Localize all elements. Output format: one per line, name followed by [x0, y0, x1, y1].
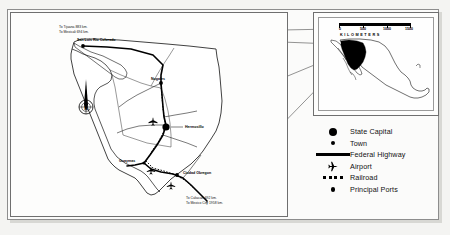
inset-map-frame: 0 500 1000 1500 KILOMETERS [318, 17, 434, 111]
legend-item-state-capital: State Capital [316, 126, 444, 138]
main-map-panel[interactable]: N To Tijuana 883 km. To Mexicali 694 km.… [10, 12, 288, 217]
city-dot-san-luis-rio-colorado [81, 44, 85, 48]
legend-item-town: Town [316, 138, 444, 150]
city-dot-hermosillo [162, 123, 169, 130]
legend-label-state-capital: State Capital [350, 127, 392, 136]
airport-icon-ciudad-obregon [167, 181, 175, 189]
city-label-nogales: Nogales [151, 77, 165, 81]
airplane-glyph [328, 161, 339, 172]
city-label-san-luis-rio-colorado: San Luis Rio Colorado [77, 38, 116, 42]
route-note-mexico-city: To Mexico City 1958 km. [186, 201, 223, 205]
legend-label-town: Town [350, 139, 367, 148]
legend-item-principal-ports: Principal Ports [316, 184, 444, 196]
legend-label-railroad: Railroad [350, 173, 378, 182]
city-label-hermosillo: Hermosillo [185, 125, 204, 129]
thick-black-line-icon [316, 153, 350, 156]
map-legend: State Capital Town Federal Highway Airpo… [316, 126, 444, 195]
small-filled-circle-icon [316, 141, 350, 145]
city-dot-ciudad-obregon [175, 173, 179, 177]
legend-item-airport: Airport [316, 161, 444, 173]
city-label-guaymas: Guaymas [119, 159, 135, 163]
svg-text:N: N [84, 105, 88, 111]
medium-filled-circle-icon [316, 187, 350, 192]
city-dot-nogales [159, 81, 163, 85]
dashed-squares-icon [316, 176, 350, 179]
legend-label-federal-highway: Federal Highway [350, 150, 405, 159]
legend-label-principal-ports: Principal Ports [350, 185, 398, 194]
legend-item-federal-highway: Federal Highway [316, 149, 444, 161]
route-note-tijuana: To Tijuana 883 km. [59, 25, 87, 29]
city-label-ciudad-obregon: Ciudad Obregon [183, 171, 211, 175]
airplane-icon [316, 161, 350, 172]
yucatan-detail [416, 64, 420, 68]
large-filled-circle-icon [316, 128, 350, 136]
map-page: N To Tijuana 883 km. To Mexicali 694 km.… [0, 0, 450, 235]
inset-map-panel[interactable]: 0 500 1000 1500 KILOMETERS [313, 12, 439, 116]
route-note-culiacan: To Culiacan 692 km. [186, 196, 217, 200]
route-note-mexicali: To Mexicali 694 km. [59, 30, 89, 34]
city-dot-guaymas [142, 161, 145, 164]
sonora-map-graphic: N [11, 13, 288, 217]
mexico-inset-graphic [319, 18, 435, 112]
legend-item-railroad: Railroad [316, 172, 444, 184]
legend-label-airport: Airport [350, 162, 372, 171]
